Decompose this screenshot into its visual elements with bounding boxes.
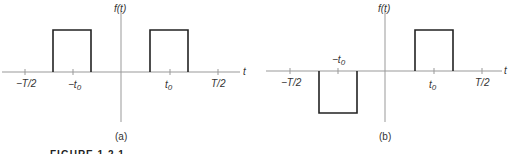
pulse-left	[53, 30, 91, 72]
tick-neg-t0-b: −t0	[332, 54, 346, 67]
figure-caption: FIGURE 1.2.1	[50, 149, 125, 154]
pulse-right	[150, 30, 188, 72]
tick-neg-T2-b: −T/2	[281, 77, 302, 88]
ylabel-b: f(t)	[378, 3, 390, 14]
tick-t0-a: t0	[165, 79, 173, 92]
tick-t0-b: t0	[429, 79, 437, 92]
tick-neg-T2-a: −T/2	[16, 78, 37, 89]
xlabel-b: t	[504, 65, 508, 76]
ylabel-a: f(t)	[114, 3, 126, 14]
panel-a: f(t) t −T/2 −t0 t0 T/2 (a)	[2, 3, 247, 142]
figure: f(t) t −T/2 −t0 t0 T/2 (a) f(t) t −T/2 −…	[0, 0, 512, 154]
tick-neg-t0-a: −t0	[68, 79, 82, 92]
tick-T2-b: T/2	[475, 77, 490, 88]
tick-T2-a: T/2	[211, 78, 226, 89]
caption-a: (a)	[115, 131, 127, 142]
pulse-negative	[319, 71, 357, 113]
panel-b: f(t) t −T/2 −t0 t0 T/2 (b)	[266, 3, 508, 142]
xlabel-a: t	[243, 66, 247, 77]
pulse-positive	[415, 30, 453, 71]
caption-b: (b)	[379, 131, 391, 142]
